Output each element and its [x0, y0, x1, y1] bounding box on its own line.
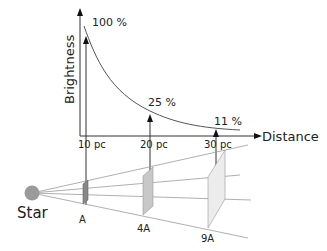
star-icon — [25, 186, 40, 201]
panel-4a — [143, 167, 153, 215]
value-label-25: 25 % — [148, 96, 176, 109]
area-label-4a: 4A — [137, 223, 150, 234]
area-label-a: A — [79, 214, 86, 225]
x-axis-label: Distance — [262, 129, 319, 144]
x-tick-10pc: 10 pc — [78, 139, 106, 150]
value-label-100: 100 % — [92, 16, 127, 29]
star-label: Star — [17, 204, 49, 222]
inverse-square-diagram: Star A 4A 9A 10 pc 20 pc 30 pc 100 % 25 … — [0, 0, 327, 251]
area-label-9a: 9A — [201, 233, 214, 244]
y-axis-label: Brightness — [62, 35, 77, 104]
x-tick-20pc: 20 pc — [140, 139, 168, 150]
x-tick-30pc: 30 pc — [204, 139, 232, 150]
area-panels — [83, 150, 225, 228]
diagram-canvas: Star A 4A 9A 10 pc 20 pc 30 pc 100 % 25 … — [0, 0, 327, 251]
panel-a — [83, 180, 88, 204]
value-label-11: 11 % — [214, 115, 242, 128]
